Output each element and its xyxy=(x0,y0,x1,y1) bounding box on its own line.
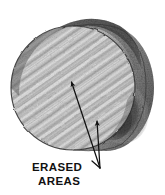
annotation-line-2: AREAS xyxy=(38,175,80,187)
annotation-label: ERASED AREAS xyxy=(32,161,82,187)
figure-canvas: ERASED AREAS xyxy=(0,0,165,195)
erased-areas-figure: ERASED AREAS xyxy=(0,0,165,195)
annotation-line-1: ERASED xyxy=(32,161,82,173)
